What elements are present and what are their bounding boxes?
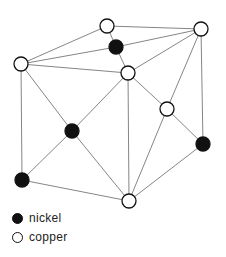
nickel-atom bbox=[196, 137, 210, 151]
bond-line bbox=[128, 73, 129, 201]
copper-atom bbox=[194, 22, 208, 36]
copper-atom bbox=[121, 66, 135, 80]
bond-line bbox=[72, 73, 128, 131]
bond-line bbox=[22, 180, 129, 201]
bond-line bbox=[21, 64, 22, 180]
bond-line bbox=[129, 109, 167, 201]
bond-line bbox=[167, 29, 201, 109]
legend-label-copper: copper bbox=[29, 230, 68, 244]
legend-item-nickel: nickel bbox=[12, 211, 61, 225]
copper-atom bbox=[122, 194, 136, 208]
legend-label-nickel: nickel bbox=[29, 211, 61, 225]
bond-line bbox=[72, 131, 129, 201]
copper-atom-icon bbox=[12, 232, 23, 243]
legend-item-copper: copper bbox=[12, 230, 68, 244]
crystal-lattice-diagram bbox=[0, 0, 226, 215]
copper-atom bbox=[160, 102, 174, 116]
copper-atom bbox=[14, 57, 28, 71]
bond-line bbox=[129, 144, 203, 201]
nickel-atom bbox=[109, 40, 123, 54]
bond-line bbox=[128, 73, 167, 109]
nickel-atom bbox=[15, 173, 29, 187]
copper-atom bbox=[100, 19, 114, 33]
bond-line bbox=[21, 47, 116, 64]
nickel-atom-icon bbox=[12, 213, 23, 224]
bond-line bbox=[116, 29, 201, 47]
bond-line bbox=[21, 26, 107, 64]
bond-line bbox=[21, 64, 72, 131]
bond-line bbox=[22, 131, 72, 180]
bond-line bbox=[107, 26, 201, 29]
nickel-atom bbox=[65, 124, 79, 138]
bond-line bbox=[201, 29, 203, 144]
bond-line bbox=[128, 29, 201, 73]
bond-line bbox=[21, 64, 128, 73]
